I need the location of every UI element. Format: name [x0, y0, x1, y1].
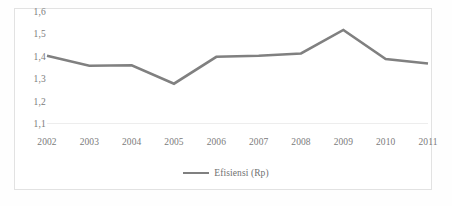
x-tick-label: 2002 — [27, 136, 67, 148]
y-tick-label: 1,2 — [20, 97, 46, 107]
legend-line-marker-icon — [183, 172, 209, 174]
plot-area — [47, 12, 428, 124]
series-efisiensi-line — [47, 12, 428, 124]
x-axis: 2002200320042005200620072008200920102011 — [47, 136, 428, 150]
y-tick-label: 1,1 — [20, 119, 46, 129]
y-axis: 1,11,21,31,41,51,6 — [20, 12, 46, 124]
legend-label-efisiensi: Efisiensi (Rp) — [214, 168, 268, 178]
y-tick-label: 1,6 — [20, 7, 46, 17]
chart-legend: Efisiensi (Rp) — [0, 168, 452, 178]
y-tick-label: 1,3 — [20, 74, 46, 84]
x-tick-label: 2004 — [112, 136, 152, 148]
x-tick-label: 2011 — [408, 136, 448, 148]
x-tick-label: 2006 — [196, 136, 236, 148]
y-tick-label: 1,5 — [20, 29, 46, 39]
x-tick-label: 2007 — [239, 136, 279, 148]
line-chart-figure: 1,11,21,31,41,51,6 200220032004200520062… — [0, 0, 452, 206]
series-polyline — [47, 30, 428, 84]
x-tick-label: 2008 — [281, 136, 321, 148]
x-tick-label: 2009 — [323, 136, 363, 148]
x-tick-label: 2003 — [69, 136, 109, 148]
x-tick-label: 2010 — [366, 136, 406, 148]
y-tick-label: 1,4 — [20, 52, 46, 62]
x-tick-label: 2005 — [154, 136, 194, 148]
